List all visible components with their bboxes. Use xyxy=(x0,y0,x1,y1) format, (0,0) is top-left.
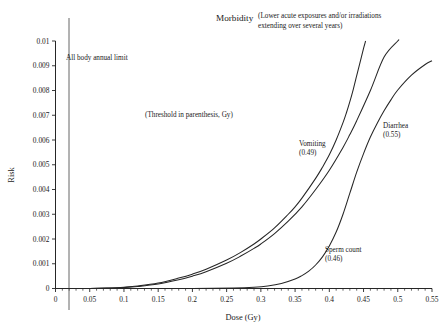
chart-subtitle-line-2: extending over several years) xyxy=(258,22,343,30)
y-tick-label: 0.003 xyxy=(33,210,50,219)
y-axis-ticks: 00.0010.0020.0030.0040.0050.0060.0070.00… xyxy=(33,37,56,294)
y-tick-label: 0 xyxy=(46,284,50,293)
x-tick-label: 0.5 xyxy=(393,295,403,304)
curve-vomiting xyxy=(56,41,366,289)
chart-subtitle-line-1: (Lower acute exposures and/or irradiatio… xyxy=(258,12,382,20)
x-tick-label: 0.25 xyxy=(220,295,233,304)
note-threshold-parenthesis: (Threshold in parenthesis, Gy) xyxy=(145,111,233,119)
y-tick-label: 0.004 xyxy=(33,185,50,194)
x-tick-label: 0.4 xyxy=(325,295,335,304)
x-axis-title: Dose (Gy) xyxy=(225,313,260,322)
x-tick-label: 0.05 xyxy=(83,295,96,304)
y-tick-label: 0.007 xyxy=(33,111,50,120)
chart-title-group: Morbidity (Lower acute exposures and/or … xyxy=(216,12,382,30)
annotation-diarrhea-name: Diarrhea xyxy=(383,122,409,130)
chart-title: Morbidity xyxy=(216,13,254,23)
annotation-diarrhea-threshold: (0.55) xyxy=(383,131,401,139)
annotation-vomiting-threshold: (0.49) xyxy=(299,149,317,157)
y-tick-label: 0.006 xyxy=(33,136,50,145)
chart-canvas: Morbidity (Lower acute exposures and/or … xyxy=(0,0,446,331)
annotation-sperm-count-threshold: (0.46) xyxy=(325,255,343,263)
x-tick-label: 0.35 xyxy=(289,295,302,304)
series-annotations-group: Vomiting (0.49) Diarrhea (0.55) Sperm co… xyxy=(299,122,409,263)
y-axis-title: Risk xyxy=(7,167,16,183)
annotation-sperm-count-name: Sperm count xyxy=(325,246,362,254)
x-tick-label: 0.2 xyxy=(188,295,198,304)
y-tick-label: 0.009 xyxy=(33,61,50,70)
y-tick-label: 0.005 xyxy=(33,160,50,169)
y-tick-label: 0.001 xyxy=(33,259,50,268)
curves-group xyxy=(56,40,433,289)
x-tick-label: 0.1 xyxy=(119,295,129,304)
y-tick-label: 0.01 xyxy=(37,37,50,46)
y-tick-label: 0.008 xyxy=(33,86,50,95)
x-tick-label: 0.55 xyxy=(426,295,439,304)
x-tick-label: 0.15 xyxy=(152,295,165,304)
annotation-vomiting-name: Vomiting xyxy=(299,140,326,148)
x-tick-label: 0.3 xyxy=(256,295,266,304)
x-tick-label: 0.45 xyxy=(357,295,370,304)
note-all-body-annual-limit: All body annual limit xyxy=(66,54,128,62)
x-axis-ticks: 00.050.10.150.20.250.30.350.40.450.50.55 xyxy=(54,289,439,304)
x-tick-label: 0 xyxy=(54,295,58,304)
morbidity-risk-chart: Morbidity (Lower acute exposures and/or … xyxy=(0,0,446,331)
notes-group: All body annual limit (Threshold in pare… xyxy=(66,54,233,119)
y-tick-label: 0.002 xyxy=(33,235,50,244)
